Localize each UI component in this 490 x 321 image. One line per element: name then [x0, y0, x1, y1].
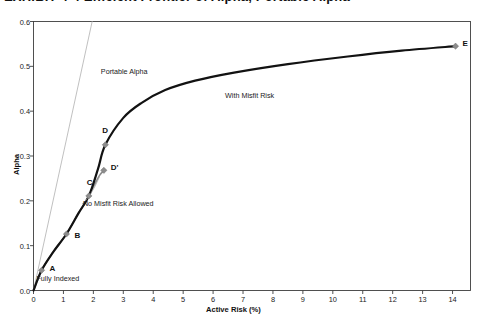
x-tick-label-9: 9 [297, 295, 309, 304]
chart-figure: EXHIBIT 4-4 Efficient Frontier of Alpha,… [0, 0, 490, 321]
x-tick-label-2: 2 [87, 295, 99, 304]
y-axis-title: Alpha [12, 154, 21, 175]
y-tick-label-0.6: 0.6 [6, 18, 30, 27]
x-tick-label-3: 3 [117, 295, 129, 304]
y-tick-label-0.5: 0.5 [6, 62, 30, 71]
plot-area [0, 0, 490, 321]
plot-frame [34, 22, 471, 291]
x-tick-label-10: 10 [327, 295, 339, 304]
x-tick-label-12: 12 [387, 295, 399, 304]
x-tick-label-11: 11 [357, 295, 369, 304]
annotation-no-misfit-risk-allowed: No Misfit Risk Allowed [83, 199, 154, 208]
point-label-D: D [102, 126, 108, 135]
x-tick-label-8: 8 [267, 295, 279, 304]
series-portable-alpha [34, 22, 93, 291]
marker-point-E [452, 43, 458, 49]
point-label-B: B [74, 231, 80, 240]
series-with-misfit-risk [34, 46, 456, 290]
annotation-fully-indexed: Fully Indexed [36, 274, 79, 283]
x-axis-title: Active Risk (%) [206, 305, 261, 314]
y-tick-label-0.2: 0.2 [6, 197, 30, 206]
x-tick-label-0: 0 [28, 295, 40, 304]
x-tick-label-6: 6 [207, 295, 219, 304]
annotation-with-misfit-risk: With Misfit Risk [225, 91, 274, 100]
point-label-E: E [463, 39, 468, 48]
x-tick-label-1: 1 [57, 295, 69, 304]
x-tick-label-5: 5 [177, 295, 189, 304]
x-tick-label-14: 14 [447, 295, 459, 304]
y-tick-label-0.4: 0.4 [6, 107, 30, 116]
annotation-portable-alpha: Portable Alpha [101, 67, 148, 76]
point-label-A: A [50, 264, 56, 273]
point-label-C: C [87, 178, 93, 187]
x-tick-label-13: 13 [417, 295, 429, 304]
x-tick-label-4: 4 [147, 295, 159, 304]
y-tick-label-0.0: 0.0 [6, 287, 30, 296]
x-tick-label-7: 7 [237, 295, 249, 304]
point-label-D-prime: D' [111, 163, 119, 172]
y-tick-label-0.1: 0.1 [6, 242, 30, 251]
